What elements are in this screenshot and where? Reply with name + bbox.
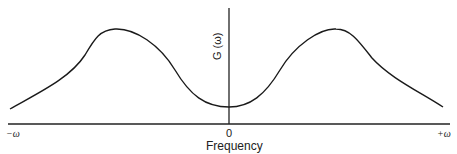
tick-zero: 0: [226, 127, 232, 139]
y-axis-label: G (ω): [211, 32, 223, 60]
spectrum-curve: [10, 29, 443, 109]
tick-pos-omega: +ω: [437, 128, 451, 139]
tick-neg-omega: −ω: [6, 128, 20, 139]
x-axis-label: Frequency: [206, 139, 263, 153]
